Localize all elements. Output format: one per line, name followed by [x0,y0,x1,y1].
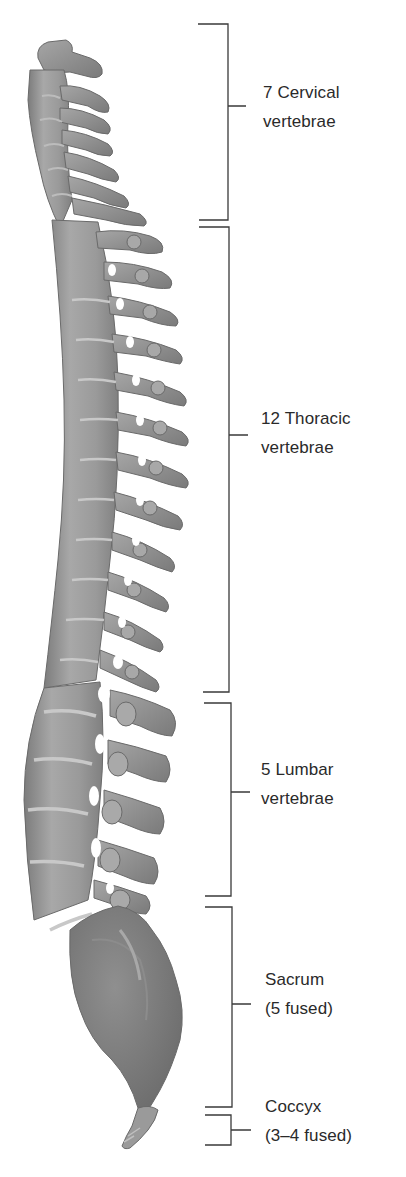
label-lumbar-line1: 5 Lumbar [261,755,334,784]
label-thoracic: 12 Thoracic vertebrae [261,404,351,462]
thoracic-bracket [199,227,248,692]
label-thoracic-line2: vertebrae [261,433,351,462]
region-brackets [198,24,251,1145]
spine-diagram [0,0,406,1177]
label-cervical: 7 Cervical vertebrae [263,78,340,136]
label-coccyx: Coccyx (3–4 fused) [265,1092,352,1150]
lumbar-vertebrae [24,682,176,930]
label-thoracic-line1: 12 Thoracic [261,404,351,433]
label-coccyx-line2: (3–4 fused) [265,1121,352,1150]
label-lumbar-line2: vertebrae [261,784,334,813]
label-sacrum-line1: Sacrum [265,965,333,994]
cervical-vertebrae [28,40,146,233]
label-coccyx-line1: Coccyx [265,1092,352,1121]
spine-illustration [24,40,188,1149]
label-cervical-line2: vertebrae [263,107,340,136]
lumbar-bracket [204,703,250,896]
sacrum-bracket [205,907,251,1107]
coccyx-bracket [205,1115,251,1145]
cervical-bracket [198,24,246,220]
coccyx [122,1106,158,1148]
thoracic-vertebrae [44,220,188,692]
label-sacrum-line2: (5 fused) [265,994,333,1023]
label-lumbar: 5 Lumbar vertebrae [261,755,334,813]
label-cervical-line1: 7 Cervical [263,78,340,107]
label-sacrum: Sacrum (5 fused) [265,965,333,1023]
sacrum [70,906,183,1110]
